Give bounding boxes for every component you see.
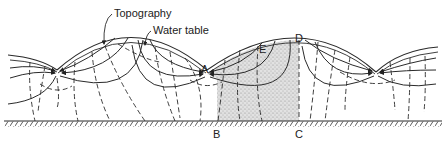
point-b-label: B (213, 129, 220, 140)
water-table-label: Water table (153, 25, 209, 36)
flow-net-diagram: Topography Water table A B C D E (0, 0, 446, 146)
water-table-leader (145, 31, 151, 45)
point-a-label: A (201, 64, 208, 75)
point-d-label: D (295, 33, 303, 44)
impermeable-base (4, 121, 442, 127)
topography-label: Topography (114, 8, 172, 19)
flow-net-svg (0, 0, 446, 146)
point-e-label: E (259, 44, 266, 55)
point-c-label: C (295, 129, 303, 140)
